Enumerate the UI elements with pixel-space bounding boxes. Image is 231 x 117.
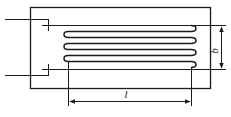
strain-gauge-diagram: b l <box>0 0 231 117</box>
dimension-l-label: l <box>124 88 127 100</box>
substrate-outline <box>31 8 211 89</box>
gauge-grid <box>64 26 196 68</box>
dimension-b-label: b <box>208 48 220 54</box>
lead-wires <box>5 19 49 76</box>
